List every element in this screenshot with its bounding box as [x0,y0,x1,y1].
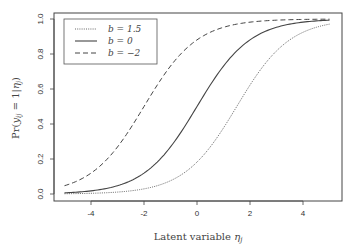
y-tick-label: 0.0 [36,188,45,200]
y-tick: 0.6 [36,83,54,95]
y-tick: 0.2 [36,153,54,165]
x-tick-label: 0 [195,209,200,218]
x-axis: -4 -2 0 2 4 [87,201,305,218]
x-axis-title: Latent variable ηj [154,231,243,244]
y-tick-label: 1.0 [36,13,45,25]
x-tick: 2 [248,201,253,218]
y-tick: 1.0 [36,13,54,25]
y-axis-title: Pr(yij = 1|ηj) [10,77,23,139]
y-tick: 0.4 [36,118,54,130]
y-axis: 0.0 0.2 0.4 0.6 0.8 1.0 [36,13,54,200]
legend: b = 1.5 b = 0 b = −2 [64,19,157,64]
legend-label: b = −2 [108,48,141,58]
logistic-curves-chart: -4 -2 0 2 4 0.0 0.2 0.4 [0,0,354,252]
x-tick: -2 [140,201,148,218]
y-tick-label: 0.2 [36,153,45,165]
legend-label: b = 1.5 [108,24,142,34]
x-tick: -4 [87,201,95,218]
y-tick: 0.8 [36,48,54,60]
y-tick-label: 0.4 [36,118,45,130]
x-tick: 0 [195,201,200,218]
y-tick: 0.0 [36,188,54,200]
x-tick-label: 4 [301,209,306,218]
x-tick-label: 2 [248,209,253,218]
x-tick: 4 [301,201,306,218]
x-tick-label: -2 [140,209,148,218]
y-tick-label: 0.6 [36,83,45,95]
y-tick-label: 0.8 [36,48,45,60]
legend-label: b = 0 [108,36,133,46]
x-tick-label: -4 [87,209,95,218]
